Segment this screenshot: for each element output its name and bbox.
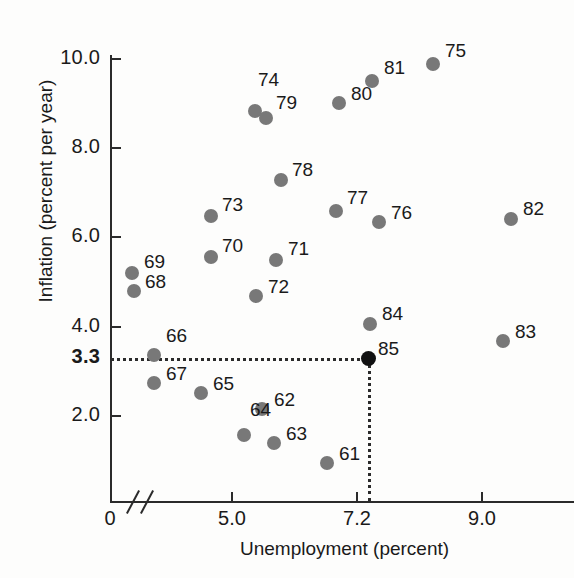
data-point[interactable] <box>426 57 440 71</box>
data-point[interactable] <box>269 253 283 267</box>
x-tick-label: 7.2 <box>317 507 397 530</box>
data-point[interactable] <box>147 348 161 362</box>
data-point[interactable] <box>363 317 377 331</box>
x-tick-mark <box>481 492 483 501</box>
data-point-label: 68 <box>145 271 166 293</box>
data-point[interactable] <box>259 111 273 125</box>
y-tick-label: 2.0 <box>14 403 100 426</box>
y-tick-mark <box>112 58 121 60</box>
data-point-label: 62 <box>274 389 295 411</box>
scatter-plot-figure: 10.08.06.04.03.32.0 05.07.29.0 616263646… <box>0 0 574 578</box>
data-point[interactable] <box>204 209 218 223</box>
y-tick-label: 10.0 <box>14 46 100 69</box>
data-point-label: 75 <box>445 40 466 62</box>
y-axis-line <box>110 55 112 503</box>
data-point-label: 71 <box>288 238 309 260</box>
y-axis-title: Inflation (percent per year) <box>35 41 57 341</box>
data-point[interactable] <box>332 96 346 110</box>
data-point-label: 67 <box>166 363 187 385</box>
data-point-label: 77 <box>347 187 368 209</box>
data-point-label: 82 <box>523 198 544 220</box>
data-point-label: 85 <box>378 338 399 360</box>
data-point[interactable] <box>504 212 518 226</box>
x-axis-line <box>110 501 574 503</box>
y-tick-label: 8.0 <box>14 135 100 158</box>
data-point[interactable] <box>147 376 161 390</box>
x-tick-label: 9.0 <box>442 507 522 530</box>
data-point[interactable] <box>372 215 386 229</box>
data-point-label: 83 <box>515 321 536 343</box>
y-tick-mark <box>112 326 121 328</box>
y-tick-label: 3.3 <box>14 345 100 368</box>
data-point[interactable] <box>365 74 379 88</box>
y-tick-label: 4.0 <box>14 314 100 337</box>
x-axis-title: Unemployment (percent) <box>240 538 449 560</box>
x-tick-label: 5.0 <box>192 507 272 530</box>
data-point[interactable] <box>204 250 218 264</box>
x-tick-mark <box>231 492 233 501</box>
y-tick-mark <box>112 147 121 149</box>
data-point[interactable] <box>237 428 251 442</box>
x-tick-label: 0 <box>70 507 150 530</box>
data-point[interactable] <box>127 284 141 298</box>
data-point[interactable] <box>267 436 281 450</box>
y-tick-mark <box>112 415 121 417</box>
data-point-label: 79 <box>276 92 297 114</box>
data-point-label: 61 <box>339 443 360 465</box>
data-point-label: 65 <box>213 373 234 395</box>
data-point-label: 76 <box>391 202 412 224</box>
data-point-label: 78 <box>292 159 313 181</box>
data-point-label: 70 <box>222 235 243 257</box>
x-tick-mark <box>356 492 358 501</box>
data-point[interactable] <box>274 173 288 187</box>
data-point-label: 64 <box>250 399 271 421</box>
y-tick-mark <box>112 236 121 238</box>
data-point-label: 72 <box>268 276 289 298</box>
data-point-label: 73 <box>222 194 243 216</box>
data-point[interactable] <box>125 266 139 280</box>
data-point[interactable] <box>194 386 208 400</box>
data-point-label: 81 <box>384 57 405 79</box>
data-point[interactable] <box>249 289 263 303</box>
data-point[interactable] <box>320 456 334 470</box>
data-point-label: 69 <box>144 251 165 273</box>
data-point[interactable] <box>329 204 343 218</box>
vertical-guide-line <box>368 358 371 501</box>
data-point-label: 66 <box>166 325 187 347</box>
y-tick-label: 6.0 <box>14 224 100 247</box>
data-point[interactable] <box>496 334 510 348</box>
data-point-label: 84 <box>382 303 403 325</box>
data-point[interactable] <box>361 351 376 366</box>
data-point-label: 74 <box>258 69 279 91</box>
data-point-label: 63 <box>286 423 307 445</box>
